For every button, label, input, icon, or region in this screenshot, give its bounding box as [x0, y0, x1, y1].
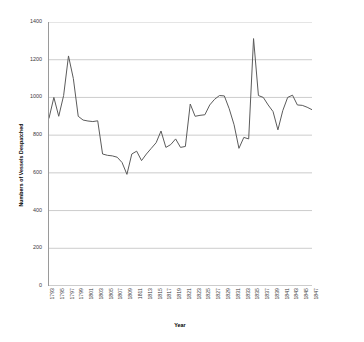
- x-axis-title: Year: [48, 322, 312, 328]
- x-tick-label: 1813: [148, 288, 153, 300]
- x-tick-label: 1845: [304, 288, 309, 300]
- x-tick-label: 1817: [167, 288, 172, 300]
- x-tick-label: 1815: [158, 288, 163, 300]
- y-tick-label: 400: [20, 208, 42, 213]
- x-tick-label: 1833: [246, 288, 251, 300]
- x-tick-label: 1793: [50, 288, 55, 300]
- x-tick-label: 1809: [128, 288, 133, 300]
- gridlines-group: [49, 22, 312, 286]
- y-tick-label: 800: [20, 132, 42, 137]
- x-tick-label: 1827: [216, 288, 221, 300]
- y-tick-label: 600: [20, 170, 42, 175]
- x-tick-label: 1821: [187, 288, 192, 300]
- x-tick-label: 1801: [89, 288, 94, 300]
- x-tick-label: 1819: [177, 288, 182, 300]
- x-tick-label: 1837: [265, 288, 270, 300]
- y-tick-label: 1000: [20, 95, 42, 100]
- y-tick-label: 1400: [20, 19, 42, 24]
- x-tick-label: 1829: [226, 288, 231, 300]
- x-tick-label: 1847: [314, 288, 319, 300]
- x-tick-label: 1795: [60, 288, 65, 300]
- x-tick-label: 1811: [138, 288, 143, 299]
- chart-container: Numbers of Vessels Despatched 0200400600…: [0, 0, 364, 342]
- y-tick-label: 0: [20, 283, 42, 288]
- x-tick-label: 1825: [206, 288, 211, 300]
- x-tick-label: 1839: [275, 288, 280, 300]
- x-tick-label: 1823: [197, 288, 202, 300]
- x-tick-label: 1841: [285, 288, 290, 300]
- x-tick-label: 1831: [236, 288, 241, 300]
- x-tick-label: 1805: [109, 288, 114, 300]
- y-tick-label: 1200: [20, 57, 42, 62]
- chart-plot-svg: [49, 22, 312, 286]
- x-axis-tick-labels: 1793179517971799180118031805180718091811…: [48, 288, 312, 320]
- x-tick-label: 1807: [118, 288, 123, 300]
- data-series-line: [49, 39, 312, 175]
- x-tick-label: 1797: [70, 288, 75, 300]
- y-axis-tick-labels: 0200400600800100012001400: [20, 0, 42, 342]
- y-tick-label: 200: [20, 246, 42, 251]
- x-tick-label: 1835: [255, 288, 260, 300]
- x-tick-label: 1799: [79, 288, 84, 300]
- plot-area: [48, 22, 312, 286]
- x-tick-label: 1803: [99, 288, 104, 300]
- x-tick-label: 1843: [294, 288, 299, 300]
